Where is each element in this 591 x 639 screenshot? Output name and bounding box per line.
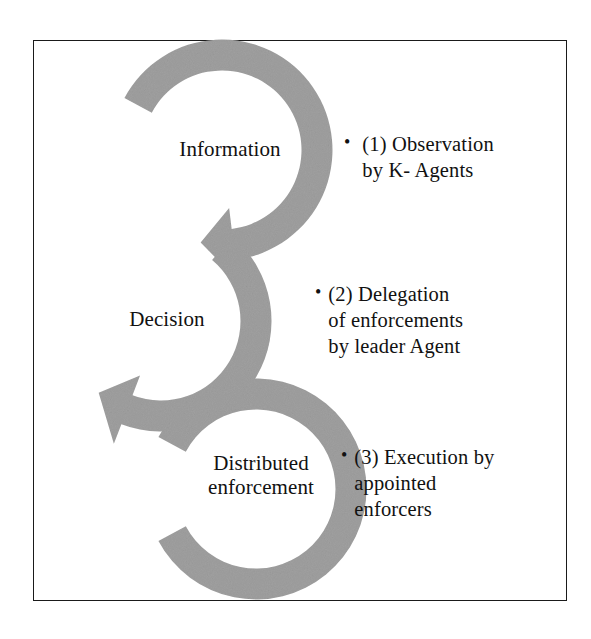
- bullet-execution-text: (3) Execution by appointed enforcers: [354, 444, 494, 523]
- ring-label-distributed-enforcement: Distributed enforcement: [176, 452, 346, 499]
- bullet-marker-icon: •: [341, 444, 347, 467]
- bullet-execution: • (3) Execution by appointed enforcers: [341, 444, 581, 523]
- figure-root: Information Decision Distributed enforce…: [0, 0, 591, 639]
- bullet-delegation: • (2) Delegation of enforcements by lead…: [315, 281, 565, 360]
- bullet-marker-icon: •: [344, 131, 350, 154]
- bullet-marker-icon: •: [315, 281, 321, 304]
- ring-label-decision: Decision: [92, 308, 242, 332]
- ring-label-information: Information: [150, 138, 310, 162]
- bullet-observation: • (1) Observation by K- Agents: [344, 131, 574, 183]
- bullet-delegation-text: (2) Delegation of enforcements by leader…: [328, 281, 463, 360]
- bullet-observation-text: (1) Observation by K- Agents: [362, 131, 493, 183]
